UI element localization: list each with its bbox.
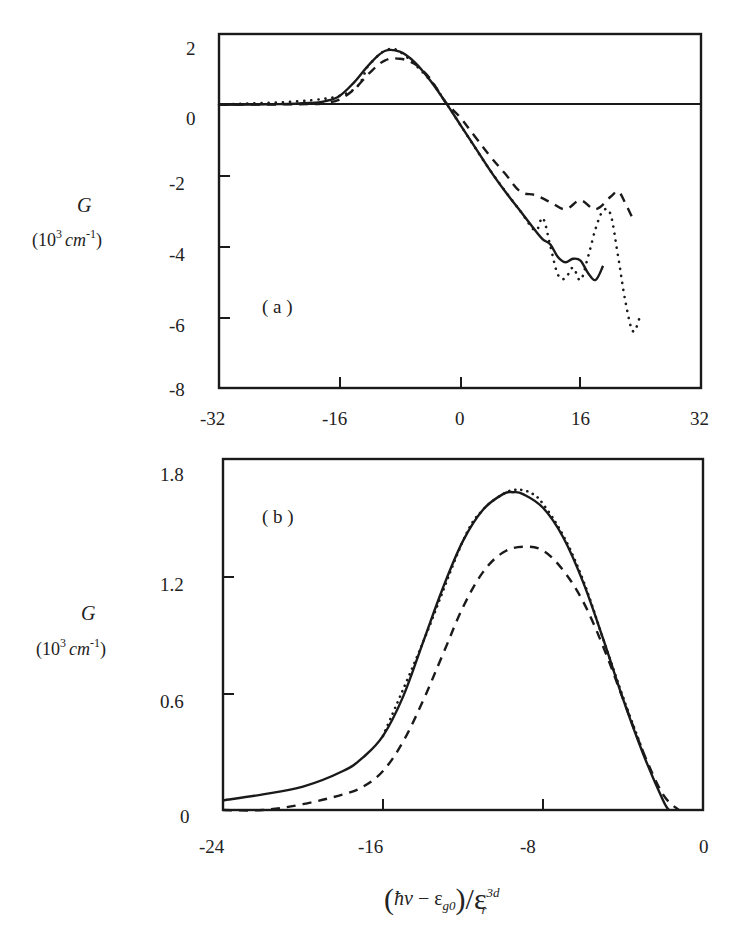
panel-a-tag: ( a ) (262, 296, 293, 318)
panel-b-ylabel-unit: (103cm-1) (36, 636, 106, 660)
panel-b-xtick-label: -8 (520, 836, 536, 857)
panel-a-xtick-label: 16 (571, 408, 590, 429)
panel-a-ytick-label: 2 (186, 38, 196, 59)
panel-b-ytick-label: 0 (180, 806, 190, 827)
panel-b-frame (223, 459, 703, 810)
panel-b-ylabel-symbol: G (81, 602, 96, 624)
panel-a-ytick-label: -4 (169, 244, 185, 265)
panel-b-yticks (223, 577, 234, 694)
panel-b-xtick-label: 0 (699, 836, 709, 857)
panel-a-xtick-label: 32 (690, 408, 709, 429)
panel-a-dotted-curve (219, 49, 641, 332)
panel-a-xticks (340, 377, 580, 388)
panel-a: 2 0 -2 -4 -6 -8 -32 -16 0 16 32 G (103cm… (32, 34, 709, 429)
panel-b-tag: ( b ) (262, 506, 294, 528)
panel-a-xtick-label: -16 (322, 408, 347, 429)
panel-b-ytick-label: 0.6 (160, 691, 184, 712)
panel-b-dotted-curve (383, 490, 643, 752)
panel-a-solid-curve (219, 50, 603, 280)
panel-b-xtick-label: -24 (199, 836, 225, 857)
panel-b-dashed-curve (223, 547, 679, 811)
panel-a-ylabel-unit: (103cm-1) (32, 227, 102, 251)
panel-b-xticks (383, 799, 543, 810)
panel-a-ytick-label: 0 (186, 108, 196, 129)
panel-a-ytick-label: -2 (169, 173, 185, 194)
panel-a-xtick-label: 0 (455, 408, 465, 429)
panel-b: 1.8 1.2 0.6 0 -24 -16 -8 0 G (103cm-1) (… (36, 459, 709, 857)
figure-canvas: 2 0 -2 -4 -6 -8 -32 -16 0 16 32 G (103cm… (0, 0, 745, 931)
panel-a-ytick-label: -8 (169, 379, 185, 400)
panel-a-ytick-label: -6 (169, 315, 185, 336)
panel-b-solid-curve (223, 492, 669, 810)
panel-b-xtick-label: -16 (358, 836, 383, 857)
panel-b-ytick-label: 1.8 (160, 464, 184, 485)
panel-a-ylabel-symbol: G (77, 194, 92, 216)
panel-a-dashed-curve (219, 58, 633, 219)
panel-b-ytick-label: 1.2 (160, 574, 184, 595)
panel-a-yticks (219, 176, 230, 318)
x-axis-label: (ħν − εg0)/ε3dr (384, 882, 500, 917)
panel-a-xtick-label: -32 (200, 408, 225, 429)
